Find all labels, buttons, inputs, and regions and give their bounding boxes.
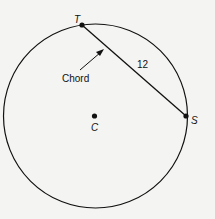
point-c xyxy=(92,113,97,118)
chord-label: Chord xyxy=(62,74,89,84)
point-s xyxy=(183,113,188,118)
point-t xyxy=(79,22,84,27)
chord-length-label: 12 xyxy=(137,60,148,70)
label-c: C xyxy=(91,123,98,133)
label-s: S xyxy=(191,116,198,126)
chord-segment-ts xyxy=(82,25,186,116)
diagram-canvas xyxy=(0,0,215,219)
chord-arrow-shaft xyxy=(80,52,101,70)
label-t: T xyxy=(74,15,80,25)
circle-diagram: T S C Chord 12 xyxy=(0,0,215,219)
